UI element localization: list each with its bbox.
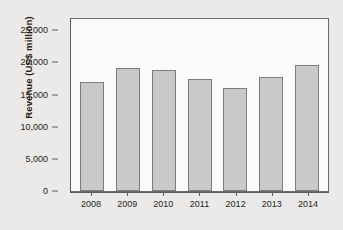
x-axis-tick-labels: 2008 2009 2010 2011 2012 2013 2014 [70, 192, 329, 214]
bar-column-2013 [253, 19, 289, 191]
x-tick-2008: 2008 [73, 192, 109, 214]
bar-column-2014 [289, 19, 325, 191]
x-tick-2010: 2010 [145, 192, 181, 214]
bar-column-2010 [146, 19, 182, 191]
bar-2009[interactable] [116, 68, 140, 191]
bar-chart-figure: Revenue (US$ million) 25,000 20,000 15,0… [0, 0, 343, 230]
x-tick-2009: 2009 [109, 192, 145, 214]
x-tick-label-2010: 2010 [145, 199, 181, 209]
bar-column-2008 [74, 19, 110, 191]
y-tick-label-5000: 5,000 [25, 154, 48, 164]
x-tick-mark-2008 [91, 192, 92, 196]
x-tick-label-2009: 2009 [109, 199, 145, 209]
x-tick-mark-2011 [199, 192, 200, 196]
bar-2011[interactable] [188, 79, 212, 191]
y-axis-tick-labels: 25,000 20,000 15,000 10,000 5,000 0 [6, 18, 58, 192]
bar-column-2012 [217, 19, 253, 191]
bar-2008[interactable] [80, 82, 104, 191]
y-tick-label-10000: 10,000 [20, 122, 48, 132]
y-tick-mark-0 [52, 191, 58, 192]
x-tick-label-2011: 2011 [181, 199, 217, 209]
x-tick-label-2014: 2014 [290, 199, 326, 209]
bar-column-2009 [110, 19, 146, 191]
x-tick-label-2008: 2008 [73, 199, 109, 209]
x-tick-mark-2013 [272, 192, 273, 196]
bar-2013[interactable] [259, 77, 283, 191]
x-tick-label-2013: 2013 [254, 199, 290, 209]
y-tick-label-25000: 25,000 [20, 25, 48, 35]
y-tick-mark-5000 [52, 159, 58, 160]
x-tick-2012: 2012 [218, 192, 254, 214]
y-tick-mark-20000 [52, 62, 58, 63]
x-tick-mark-2010 [163, 192, 164, 196]
x-tick-label-2012: 2012 [218, 199, 254, 209]
bar-2012[interactable] [223, 88, 247, 191]
y-tick-label-15000: 15,000 [20, 90, 48, 100]
x-tick-2014: 2014 [290, 192, 326, 214]
y-tick-mark-10000 [52, 126, 58, 127]
plot-area [70, 18, 329, 192]
y-tick-mark-15000 [52, 94, 58, 95]
x-tick-mark-2014 [308, 192, 309, 196]
bar-2014[interactable] [295, 65, 319, 191]
x-tick-2011: 2011 [181, 192, 217, 214]
y-tick-label-0: 0 [43, 186, 48, 196]
y-tick-mark-25000 [52, 30, 58, 31]
y-tick-label-20000: 20,000 [20, 57, 48, 67]
x-tick-mark-2009 [127, 192, 128, 196]
bar-2010[interactable] [152, 70, 176, 191]
bar-column-2011 [182, 19, 218, 191]
y-axis-line [70, 18, 71, 193]
x-tick-2013: 2013 [254, 192, 290, 214]
bar-series [71, 19, 328, 191]
x-tick-mark-2012 [236, 192, 237, 196]
